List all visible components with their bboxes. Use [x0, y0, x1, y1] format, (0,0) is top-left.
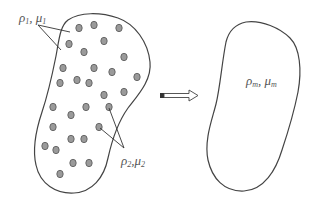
effective-property-label: ρm, μm	[246, 74, 277, 89]
homogenization-diagram	[0, 0, 334, 202]
inclusion-property-label: ρ2,μ2	[121, 154, 145, 169]
matrix-leader-lines	[38, 25, 70, 50]
homogenization-arrow-icon	[160, 90, 198, 101]
matrix-property-label: ρ1, μ1	[19, 11, 46, 26]
effective-region-outline	[207, 22, 300, 191]
